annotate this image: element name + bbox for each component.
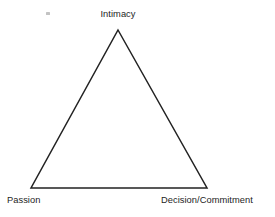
triangle-outline xyxy=(31,30,207,188)
vertex-label-bottom-right: Decision/Commitment xyxy=(161,195,253,206)
triangle-shape xyxy=(0,0,275,217)
vertex-label-top: Intimacy xyxy=(0,9,236,20)
vertex-label-bottom-left: Passion xyxy=(7,195,40,206)
diagram-canvas: Intimacy Passion Decision/Commitment xyxy=(0,0,275,217)
